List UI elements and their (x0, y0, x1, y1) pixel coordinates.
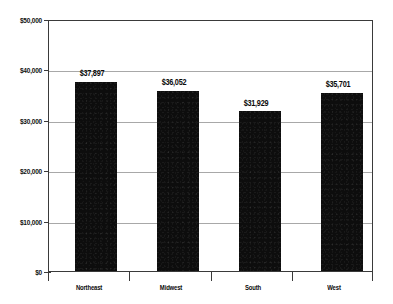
bar-south (239, 111, 281, 271)
value-label-northeast: $37,897 (60, 68, 124, 78)
x-tick-mark (129, 272, 130, 281)
y-tick-label: $0 (2, 269, 42, 276)
x-tick-mark (48, 272, 49, 281)
category-label-south: South (221, 284, 286, 291)
bar-midwest (157, 91, 199, 271)
y-tick-label: $30,000 (2, 118, 42, 125)
bar-chart: $50,000 $40,000 $30,000 $20,000 $10,000 … (0, 0, 393, 304)
x-tick-mark (292, 272, 293, 281)
y-tick-label: $10,000 (2, 219, 42, 226)
category-label-midwest: Midwest (139, 284, 204, 291)
category-label-west: West (302, 284, 367, 291)
plot-area (48, 20, 373, 272)
value-label-midwest: $36,052 (142, 77, 206, 87)
bar-northeast (75, 82, 117, 272)
y-tick-label: $20,000 (2, 168, 42, 175)
category-label-northeast: Northeast (57, 284, 122, 291)
value-label-west: $35,701 (306, 79, 370, 89)
y-tick-label: $40,000 (2, 67, 42, 74)
x-tick-mark (372, 272, 373, 281)
y-tick-label: $50,000 (2, 17, 42, 24)
value-label-south: $31,929 (224, 98, 288, 108)
x-tick-mark (211, 272, 212, 281)
bar-west (321, 93, 363, 272)
